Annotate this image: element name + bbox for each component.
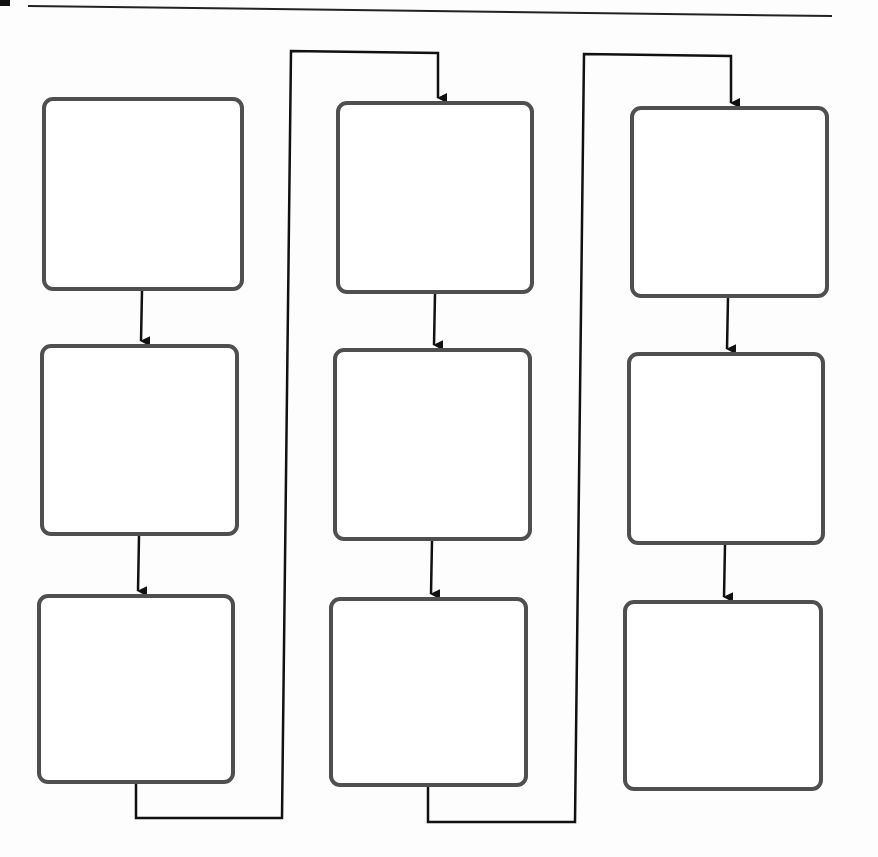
flow-box-9[interactable] [623,600,823,791]
flow-box-8[interactable] [627,352,825,545]
arrow-box5-to-box6 [431,541,432,594]
flow-box-7[interactable] [630,106,829,298]
top-rule-line [28,6,832,16]
flow-box-3[interactable] [37,594,235,784]
flow-box-1[interactable] [42,97,244,291]
arrow-box2-to-box3 [138,536,139,591]
flow-box-2[interactable] [40,344,239,536]
flow-box-4[interactable] [336,101,534,294]
arrow-box7-to-box8 [727,298,728,349]
arrow-box8-to-box9 [724,545,725,597]
flow-box-5[interactable] [333,348,532,541]
arrow-box4-to-box5 [434,294,435,345]
arrow-box1-to-box2 [141,291,142,341]
flow-box-6[interactable] [329,597,528,787]
